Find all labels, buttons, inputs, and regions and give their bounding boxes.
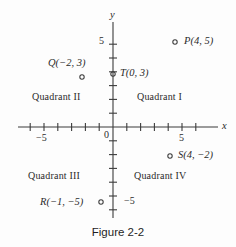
- x-axis-label: x: [222, 121, 227, 132]
- point-label-s: S(4, −2): [178, 150, 213, 161]
- point-label-q: Q(−2, 3): [48, 58, 85, 69]
- point-marker-p[interactable]: [173, 40, 177, 44]
- point-label-p: P(4, 5): [184, 36, 213, 47]
- coordinate-plane-figure: y x 0−555−5 P(4, 5)Q(−2, 3)T(0, 3)S(4, −…: [0, 0, 236, 247]
- axis-tick-label: −5: [36, 133, 47, 143]
- quadrant-label-three: Quadrant III: [28, 171, 80, 181]
- point-marker-q[interactable]: [80, 75, 84, 79]
- quadrant-label-four: Quadrant IV: [134, 171, 186, 181]
- y-axis-label: y: [110, 10, 115, 21]
- axis-tick-label: 0: [104, 130, 109, 140]
- point-marker-r[interactable]: [99, 200, 103, 204]
- point-label-r: R(−1, −5): [40, 197, 83, 208]
- figure-caption: Figure 2-2: [0, 226, 236, 238]
- axis-tick-label: −5: [124, 196, 135, 206]
- axis-tick-label: 5: [99, 36, 104, 46]
- axes-group: [18, 22, 218, 218]
- axis-tick-label: 5: [179, 133, 184, 143]
- quadrant-label-two: Quadrant II: [32, 92, 81, 102]
- point-label-t: T(0, 3): [120, 68, 149, 79]
- point-marker-s[interactable]: [168, 154, 172, 158]
- quadrant-label-one: Quadrant I: [137, 92, 182, 102]
